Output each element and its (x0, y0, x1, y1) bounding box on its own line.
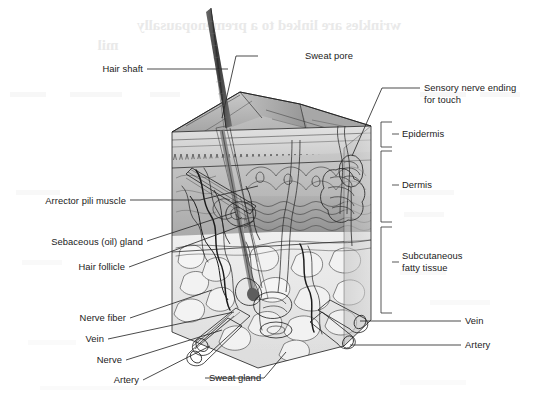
labels-bottom-group: Sweat gland (209, 372, 261, 383)
label-arrector-pili-muscle: Arrector pili muscle (45, 195, 126, 206)
bracket-epidermis (381, 122, 392, 147)
label-artery-right: Artery (465, 339, 491, 350)
label-sweat-gland: Sweat gland (209, 372, 261, 383)
label-sensory-nerve-ending-line2: for touch (424, 94, 461, 105)
label-nerve: Nerve (97, 354, 122, 365)
bracket-dermis (381, 151, 392, 222)
skin-cross-section-figure: wrinkles are linked to a premenopausally… (0, 0, 538, 399)
label-sebaceous-gland: Sebaceous (oil) gland (51, 236, 143, 247)
leader-artery-left (143, 346, 210, 380)
layer-brackets (381, 122, 399, 313)
label-vein-right: Vein (465, 315, 483, 326)
label-subcutaneous: Subcutaneous (402, 250, 463, 261)
block-right-face (344, 126, 371, 346)
figure-page: wrinkles are linked to a premenopausally… (0, 0, 538, 399)
label-dermis: Dermis (402, 179, 432, 190)
bracket-subcutaneous (381, 227, 392, 313)
bleed-through-line-1: wrinkles are linked to a premenopausally (136, 17, 401, 33)
label-hair-follicle: Hair follicle (79, 261, 126, 272)
bleed-through-line-2: mil (98, 37, 119, 53)
label-sweat-pore: Sweat pore (305, 50, 353, 61)
label-hair-shaft: Hair shaft (102, 63, 143, 74)
label-vein-left: Vein (86, 333, 104, 344)
label-nerve-fiber: Nerve fiber (80, 312, 126, 323)
label-epidermis: Epidermis (402, 128, 444, 139)
label-subcutaneous-line2: fatty tissue (402, 262, 447, 273)
label-artery-left: Artery (114, 374, 140, 385)
labels-left-group: Hair shaft Arrector pili muscle Sebaceou… (45, 63, 143, 385)
label-sensory-nerve-ending: Sensory nerve ending (424, 82, 516, 93)
bracket-labels-group: Epidermis Dermis Subcutaneous fatty tiss… (402, 128, 463, 273)
